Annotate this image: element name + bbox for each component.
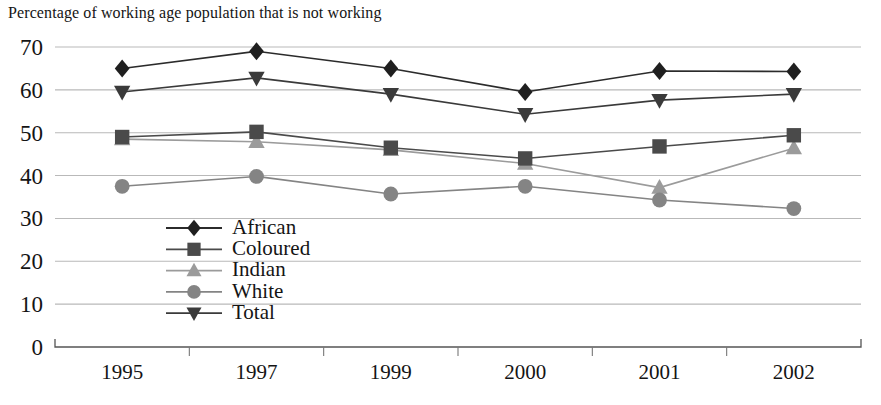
data-point-marker <box>186 308 201 322</box>
data-point-marker <box>187 285 201 299</box>
x-axis-tick-label: 1995 <box>101 360 143 384</box>
line-chart-svg: 010203040506070 199519971999200020012002… <box>0 0 881 405</box>
data-point-marker <box>517 108 533 123</box>
data-point-marker <box>187 243 200 256</box>
x-axis-tick-label: 2000 <box>504 360 546 384</box>
x-axis-tickmarks <box>189 347 726 356</box>
data-point-marker <box>786 88 802 103</box>
y-axis-tick-label: 70 <box>20 35 43 60</box>
data-point-marker <box>518 83 533 101</box>
axis-lines <box>55 339 861 347</box>
x-axis-tick-label: 1997 <box>236 360 278 384</box>
x-axis-tick-label: 2002 <box>773 360 815 384</box>
data-point-marker <box>652 62 667 80</box>
y-axis-tick-labels: 010203040506070 <box>20 35 43 360</box>
data-point-marker <box>115 179 130 194</box>
y-axis-tick-label: 50 <box>20 121 43 146</box>
data-point-marker <box>518 179 533 194</box>
data-point-marker <box>652 139 666 153</box>
data-point-marker <box>249 125 263 139</box>
chart-plot-area: 010203040506070 199519971999200020012002… <box>0 0 881 405</box>
series-line <box>122 176 794 208</box>
series-line <box>122 78 794 114</box>
data-point-marker <box>652 193 667 208</box>
y-axis-tick-label: 20 <box>20 249 43 274</box>
series-african <box>115 42 801 101</box>
data-point-marker <box>187 220 201 237</box>
series-coloured <box>115 125 801 166</box>
data-point-marker <box>115 130 129 144</box>
y-axis-tick-label: 0 <box>32 335 44 360</box>
x-axis-tick-labels: 199519971999200020012002 <box>101 360 815 384</box>
x-axis-tick-label: 1999 <box>370 360 412 384</box>
data-point-marker <box>787 128 801 142</box>
y-axis-tick-label: 60 <box>20 78 43 103</box>
data-point-marker <box>249 42 264 60</box>
y-axis-tick-label: 10 <box>20 292 43 317</box>
series-line <box>122 51 794 92</box>
data-point-marker <box>114 86 130 101</box>
chart-legend: AfricanColouredIndianWhiteTotal <box>166 215 311 324</box>
series-line <box>122 139 794 187</box>
data-point-marker <box>786 62 801 80</box>
data-point-marker <box>186 263 201 277</box>
series-indian <box>114 131 802 194</box>
y-axis-tick-label: 40 <box>20 164 43 189</box>
data-series-group <box>114 42 802 216</box>
data-point-marker <box>115 59 130 77</box>
x-axis-line <box>55 339 861 347</box>
data-point-marker <box>383 187 398 202</box>
data-point-marker <box>249 169 264 184</box>
data-point-marker <box>383 59 398 77</box>
data-point-marker <box>518 151 532 165</box>
series-line <box>122 132 794 159</box>
data-point-marker <box>786 201 801 216</box>
legend-label: Total <box>232 300 275 324</box>
y-axis-tick-label: 30 <box>20 206 43 231</box>
x-axis-tick-label: 2001 <box>639 360 681 384</box>
data-point-marker <box>384 141 398 155</box>
series-total <box>114 72 802 123</box>
